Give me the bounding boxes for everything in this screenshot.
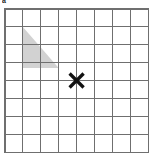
figure-container: a	[0, 0, 157, 165]
grid-diagram	[0, 0, 157, 165]
